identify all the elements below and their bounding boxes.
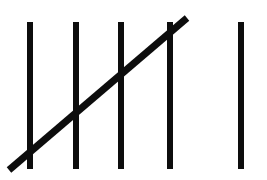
tally-mark-canvas (0, 0, 267, 180)
tally-mark-drawing (0, 0, 267, 180)
drawing-background (0, 0, 267, 180)
